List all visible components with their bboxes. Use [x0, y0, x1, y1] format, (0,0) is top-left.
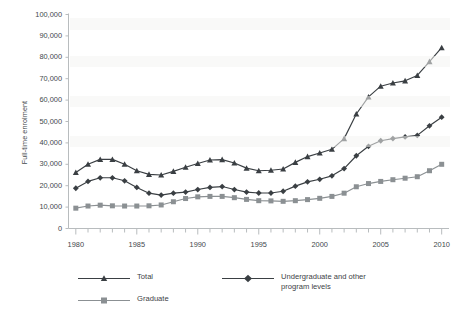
legend-label-graduate: Graduate — [137, 294, 169, 304]
x-tick-label: 2000 — [300, 241, 340, 248]
legend-label-undergraduate: Undergraduate and other program levels — [281, 272, 366, 292]
chart-legend: Total Graduate Undergraduate and other p… — [0, 268, 456, 318]
legend-swatch-graduate — [78, 295, 130, 306]
legend-swatch-total — [78, 273, 130, 284]
x-tick-label: 1995 — [239, 241, 279, 248]
legend-line-diamond-icon — [222, 273, 274, 284]
x-tick-label: 1985 — [117, 241, 157, 248]
legend-line-triangle-icon — [78, 273, 130, 284]
chart-container: Full-time enrolment 010,00020,00030,0004… — [0, 0, 456, 318]
legend-item-undergraduate[interactable]: Undergraduate and other program levels — [222, 272, 366, 292]
legend-label-total: Total — [137, 272, 153, 282]
x-tick-label: 1980 — [56, 241, 96, 248]
x-tick-label: 1990 — [178, 241, 218, 248]
legend-line-square-icon — [78, 295, 130, 306]
legend-item-total[interactable]: Total — [78, 272, 153, 284]
legend-item-graduate[interactable]: Graduate — [78, 294, 169, 306]
legend-swatch-undergraduate — [222, 273, 274, 284]
x-tick-label: 2010 — [422, 241, 456, 248]
x-tick-label: 2005 — [361, 241, 401, 248]
